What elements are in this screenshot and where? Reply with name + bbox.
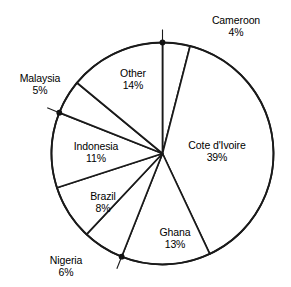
pie-chart-canvas bbox=[0, 0, 291, 287]
slice-label-cote-d-ivoire: Cote d'Ivoire39% bbox=[188, 139, 245, 163]
leader-line-nigeria bbox=[117, 257, 122, 269]
slice-label-brazil: Brazil8% bbox=[90, 190, 116, 214]
slice-label-indonesia: Indonesia11% bbox=[74, 140, 119, 164]
leader-line-malaysia bbox=[47, 108, 59, 113]
slice-label-name-cameroon: Cameroon bbox=[212, 14, 260, 26]
slice-label-name-brazil: Brazil bbox=[90, 190, 116, 202]
slice-label-name-nigeria: Nigeria bbox=[50, 254, 83, 266]
slice-label-ghana: Ghana13% bbox=[159, 226, 190, 250]
slice-label-other: Other14% bbox=[120, 67, 146, 91]
slice-label-value-brazil: 8% bbox=[90, 202, 116, 214]
slice-label-value-cameroon: 4% bbox=[212, 26, 260, 38]
slice-label-name-cote-d-ivoire: Cote d'Ivoire bbox=[188, 139, 245, 151]
slice-label-nigeria: Nigeria6% bbox=[50, 254, 83, 278]
slice-label-name-ghana: Ghana bbox=[159, 226, 190, 238]
slice-label-value-nigeria: 6% bbox=[50, 266, 83, 278]
slice-label-name-malaysia: Malaysia bbox=[20, 72, 61, 84]
slice-label-value-other: 14% bbox=[120, 79, 146, 91]
slice-label-value-ghana: 13% bbox=[159, 238, 190, 250]
slice-label-malaysia: Malaysia5% bbox=[20, 72, 61, 96]
slice-label-value-malaysia: 5% bbox=[20, 84, 61, 96]
slice-label-cameroon: Cameroon4% bbox=[212, 14, 260, 38]
slice-label-value-indonesia: 11% bbox=[74, 152, 119, 164]
slice-label-value-cote-d-ivoire: 39% bbox=[188, 151, 245, 163]
slice-label-name-indonesia: Indonesia bbox=[74, 140, 119, 152]
slice-label-name-other: Other bbox=[120, 67, 146, 79]
pie-chart: Cameroon4%Cote d'Ivoire39%Ghana13%Nigeri… bbox=[0, 0, 291, 287]
